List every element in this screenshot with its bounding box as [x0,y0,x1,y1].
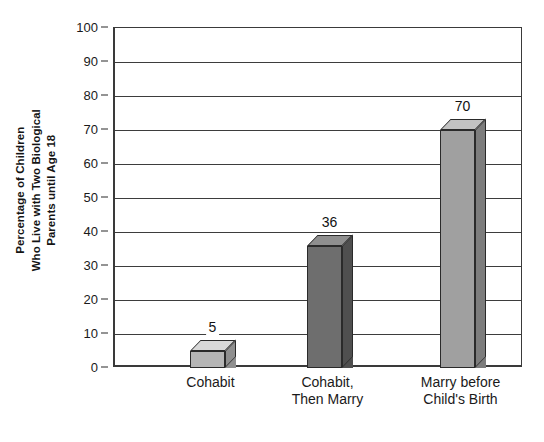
plot-area: 53670 [113,27,522,367]
y-axis-tick-label: 50 [84,190,98,205]
y-axis-tick-mark [101,27,108,28]
y-axis-tick-label: 60 [84,156,98,171]
y-axis-tick-mark [101,265,108,266]
bar-front-face [440,130,475,368]
bar-value-label: 36 [319,214,341,230]
y-axis-title-line-2: Who Live with Two Biological [28,109,44,271]
y-axis-tick-label: 70 [84,122,98,137]
y-axis-tick-label: 100 [76,20,98,35]
y-axis-tick-label: 90 [84,54,98,69]
x-axis-category-label: Marry beforeChild's Birth [421,374,500,408]
x-axis-category-label-line: Then Marry [292,391,364,408]
bar-side-face [225,351,236,368]
x-axis-category-label-line: Marry before [421,374,500,391]
chart-screenshot: Percentage of Children Who Live with Two… [0,0,544,442]
y-axis-title: Percentage of Children Who Live with Two… [0,0,72,380]
bar-value-label: 5 [206,319,220,335]
y-axis-tick-mark [101,129,108,130]
y-axis-title-line-1: Percentage of Children [13,109,29,271]
y-axis-tick-labels: 1009080706050403020100 [72,0,108,442]
bar-top-face [190,340,225,351]
y-axis-tick-mark [101,95,108,96]
gridline [115,96,521,97]
bar-side-face [475,130,486,368]
y-axis-tick-mark [101,61,108,62]
x-axis-category-label-line: Cohabit, [292,374,364,391]
bar-front-face [190,351,225,368]
x-axis-category-label-line: Cohabit [186,374,234,391]
bar-top-face [307,235,342,246]
y-axis-tick-mark [101,197,108,198]
gridline [115,62,521,63]
y-axis-tick-label: 0 [91,360,98,375]
y-axis-tick-label: 20 [84,292,98,307]
y-axis-tick-label: 30 [84,258,98,273]
bar[interactable] [307,235,353,368]
bar-side-face [342,246,353,368]
bar[interactable] [440,119,486,368]
bar-front-face [307,246,342,368]
y-axis-tick-mark [101,333,108,334]
y-axis-tick-label: 40 [84,224,98,239]
y-axis-title-line-3: Parents until Age 18 [44,109,60,271]
y-axis-tick-mark [101,299,108,300]
y-axis-tick-label: 80 [84,88,98,103]
x-axis-category-label: Cohabit,Then Marry [292,374,364,408]
y-axis-tick-mark [101,367,108,368]
y-axis-tick-mark [101,163,108,164]
y-axis-tick-label: 10 [84,326,98,341]
x-axis-category-label: Cohabit [186,374,234,391]
bar[interactable] [190,340,236,368]
y-axis-tick-mark [101,231,108,232]
bar-value-label: 70 [452,98,474,114]
bar-top-face [440,119,475,130]
x-axis-category-label-line: Child's Birth [421,391,500,408]
